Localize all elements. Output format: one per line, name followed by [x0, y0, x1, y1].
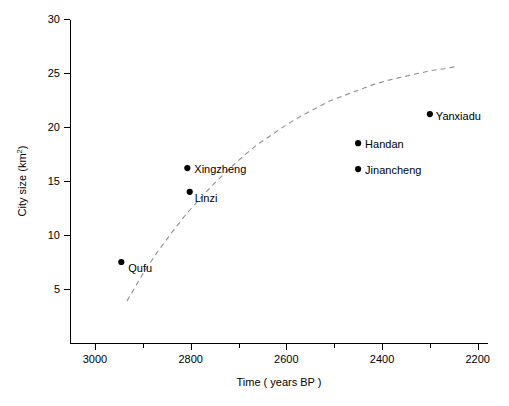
axes-group: [71, 20, 488, 344]
data-point: Qufu: [118, 259, 152, 274]
x-tick-label: 3000: [83, 353, 107, 365]
scatter-plot: 51015202530 30002800260024002200 QufuXin…: [0, 0, 509, 406]
data-point: Yanxiadu: [427, 110, 481, 122]
data-point-label: Jinancheng: [365, 164, 421, 176]
y-tick-label: 20: [48, 121, 60, 133]
data-point-label: Xingzheng: [194, 163, 246, 175]
x-axis-ticks: 30002800260024002200: [83, 344, 490, 365]
data-points-group: QufuXingzhengLinziJinanchengHandanYanxia…: [118, 110, 481, 274]
data-point: Jinancheng: [355, 164, 421, 176]
data-point-label: Qufu: [128, 262, 152, 274]
data-point: Xingzheng: [184, 163, 246, 175]
y-tick-label: 30: [48, 13, 60, 25]
y-axis-ticks: 51015202530: [48, 13, 70, 295]
data-point-marker: [118, 259, 124, 265]
data-point-label: Linzi: [195, 192, 218, 204]
data-point-marker: [355, 166, 361, 172]
data-point-marker: [427, 111, 433, 117]
data-point-marker: [355, 140, 361, 146]
y-tick-label: 15: [48, 175, 60, 187]
y-tick-label: 25: [48, 67, 60, 79]
y-axis-title-close: ): [16, 146, 28, 150]
data-point: Handan: [355, 138, 404, 150]
y-axis-title-base: City size (km: [16, 153, 28, 216]
x-tick-label: 2800: [178, 353, 202, 365]
data-point-marker: [184, 165, 190, 171]
y-axis-title-group: City size (km2): [15, 146, 28, 217]
logistic-trend-curve: [127, 67, 456, 301]
chart-figure: 51015202530 30002800260024002200 QufuXin…: [0, 0, 509, 406]
y-tick-label: 5: [54, 283, 60, 295]
y-tick-label: 10: [48, 229, 60, 241]
x-tick-label: 2200: [465, 353, 489, 365]
x-tick-label: 2400: [370, 353, 394, 365]
data-point-marker: [187, 189, 193, 195]
x-tick-label: 2600: [274, 353, 298, 365]
data-point: Linzi: [187, 189, 218, 204]
x-axis-title: Time ( years BP ): [237, 376, 322, 388]
data-point-label: Yanxiadu: [436, 110, 481, 122]
y-axis-title: City size (km2): [15, 146, 28, 217]
data-point-label: Handan: [365, 138, 404, 150]
